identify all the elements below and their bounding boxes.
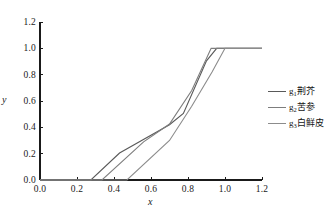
x-tick-label: 0.4 (108, 184, 120, 194)
x-tick-label: 0.2 (71, 184, 83, 194)
legend: g1荆芥g2苦参g3白鲜皮 (268, 85, 336, 133)
x-tick-label: 0.8 (182, 184, 194, 194)
y-tick-label: 1.2 (10, 17, 36, 27)
legend-item-g2[interactable]: g2苦参 (268, 101, 336, 114)
x-tick-label: 0.0 (34, 184, 46, 194)
legend-label-g1: g1荆芥 (289, 87, 315, 96)
y-axis-title: y (2, 94, 6, 105)
x-tick-label: 1.0 (219, 184, 231, 194)
series-line-g1 (40, 48, 262, 180)
legend-line-swatch-g1 (268, 91, 286, 92)
x-tick-label: 0.6 (145, 184, 157, 194)
legend-label-g3: g3白鲜皮 (289, 119, 324, 128)
y-tick-label: 0.2 (10, 149, 36, 159)
y-tick-label: 0.8 (10, 70, 36, 80)
x-tick-label: 1.2 (256, 184, 268, 194)
legend-line-swatch-g3 (268, 123, 286, 124)
legend-item-g3[interactable]: g3白鲜皮 (268, 117, 336, 130)
x-axis-title: x (148, 196, 152, 207)
legend-item-g1[interactable]: g1荆芥 (268, 85, 336, 98)
legend-label-g2: g2苦参 (289, 103, 315, 112)
y-tick-label: 1.0 (10, 43, 36, 53)
y-tick-label: 0.6 (10, 96, 36, 106)
series-line-g2 (40, 48, 262, 180)
series-line-g3 (40, 48, 262, 180)
chart-figure: 0.00.20.40.60.81.01.2 0.00.20.40.60.81.0… (0, 0, 336, 219)
legend-line-swatch-g2 (268, 107, 286, 108)
y-tick-label: 0.0 (10, 175, 36, 185)
axes (40, 22, 262, 180)
y-tick-label: 0.4 (10, 122, 36, 132)
data-series-group (40, 48, 262, 180)
